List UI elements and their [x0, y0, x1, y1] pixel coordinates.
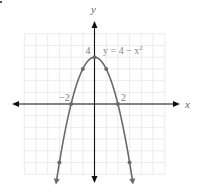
labels-group: x y −2 2 4 y = 4 − x2 — [59, 3, 190, 110]
annotation-4: 4 — [86, 45, 91, 56]
y-axis-arrow-up — [92, 21, 98, 28]
y-axis-arrow-down — [92, 176, 98, 183]
marked-point — [104, 67, 108, 71]
equation-label: y = 4 − x2 — [103, 44, 143, 56]
curve-arrow-right — [129, 178, 135, 184]
equation-text: y = 4 − x — [103, 45, 139, 56]
annotation-2: 2 — [121, 92, 126, 103]
marked-point — [93, 55, 97, 59]
equation-exponent: 2 — [139, 44, 143, 52]
marked-point — [57, 161, 61, 165]
parabola-chart: x y −2 2 4 y = 4 − x2 — [0, 0, 197, 195]
y-axis-label: y — [90, 3, 96, 15]
annotation-neg2: −2 — [59, 92, 70, 103]
x-axis-label: x — [184, 98, 190, 110]
marked-point — [116, 102, 120, 106]
marked-point — [81, 67, 85, 71]
marked-point — [128, 161, 132, 165]
curve-arrow-left — [54, 178, 60, 184]
x-axis-arrow-left — [12, 101, 19, 107]
x-axis-arrow-right — [173, 101, 180, 107]
